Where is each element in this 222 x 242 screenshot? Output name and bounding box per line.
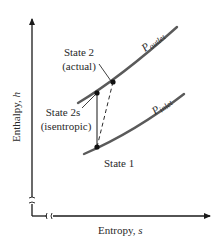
state-2-leader	[99, 64, 111, 81]
state-2s-point	[94, 90, 99, 95]
state-2-label: State 2	[64, 46, 94, 58]
y-axis-label: Enthalpy, h	[10, 92, 22, 143]
state-1-label: State 1	[104, 157, 134, 169]
state-2-sublabel: (actual)	[62, 60, 96, 73]
hs-diagram: Enthalpy, h Entropy, s Poutlet Pinlet St…	[0, 0, 222, 242]
x-axis	[32, 213, 210, 219]
p-outlet-label: Poutlet	[138, 28, 168, 55]
x-axis-label: Entropy, s	[98, 224, 143, 236]
y-axis-break-icon	[29, 197, 35, 203]
state-2s-sublabel: (isentropic)	[41, 120, 92, 133]
state-2-actual-point	[110, 79, 115, 84]
state-1-point	[94, 144, 99, 149]
y-axis	[29, 19, 35, 216]
actual-process-line	[97, 82, 113, 147]
p-inlet-label: Pinlet	[148, 94, 175, 119]
state-2s-label: State 2s	[46, 106, 81, 118]
